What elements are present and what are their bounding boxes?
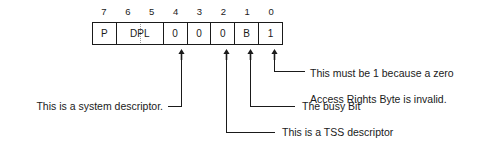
cell-dpl-field: DPL — [117, 23, 164, 44]
bit-number-0: 0 — [259, 5, 283, 19]
annotation-must-be-one-line1: This must be 1 because a zero — [310, 67, 490, 80]
leader-bit-1-horizontal — [250, 106, 295, 107]
bit-number-3: 3 — [188, 5, 212, 19]
cell-present-bit: P — [93, 23, 117, 44]
access-rights-byte-box: P DPL 0 0 0 B 1 — [92, 22, 283, 45]
cell-bit-2: 0 — [211, 23, 235, 44]
cell-busy-bit: B — [235, 23, 259, 44]
bit-number-row: 7 6 5 4 3 2 1 0 — [92, 5, 283, 19]
leader-bit-1-vertical — [250, 56, 251, 107]
leader-bit-2-vertical — [226, 56, 227, 133]
bit-number-5: 5 — [140, 5, 164, 19]
bit-number-6: 6 — [116, 5, 140, 19]
cell-bit-0: 1 — [259, 23, 282, 44]
leader-bit-0-vertical — [274, 56, 275, 72]
cell-bit-3: 0 — [188, 23, 212, 44]
annotation-system-descriptor: This is a system descriptor. — [0, 100, 163, 113]
leader-bit-2-horizontal — [226, 132, 275, 133]
bit-number-1: 1 — [235, 5, 259, 19]
bit-number-4: 4 — [164, 5, 188, 19]
bit-field-diagram: 7 6 5 4 3 2 1 0 P DPL 0 0 0 B 1 — [0, 0, 494, 152]
annotation-tss-descriptor: This is a TSS descriptor — [282, 126, 472, 139]
bit-number-2: 2 — [211, 5, 235, 19]
annotation-busy-bit: The busy Bit — [302, 100, 452, 113]
bit-number-7: 7 — [92, 5, 116, 19]
leader-bit-0-horizontal — [274, 71, 305, 72]
cell-bit-4: 0 — [164, 23, 188, 44]
leader-bit-4-vertical — [181, 56, 182, 107]
leader-bit-4-horizontal — [168, 106, 182, 107]
